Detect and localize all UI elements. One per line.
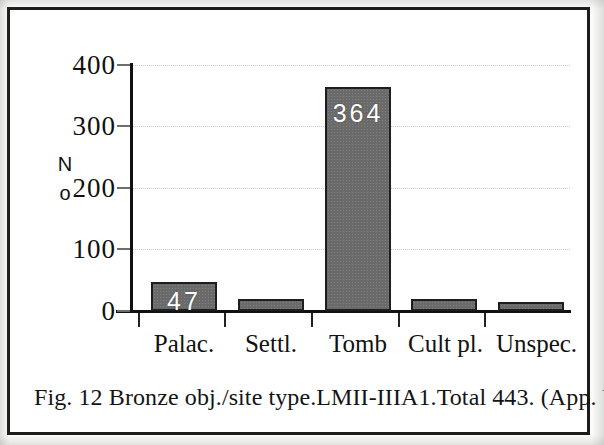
- y-axis-title-char-1: N: [52, 150, 78, 179]
- y-tick-label-0: 0: [44, 298, 116, 325]
- y-tick-400: [117, 64, 130, 66]
- bar-unspec[interactable]: [498, 302, 564, 311]
- x-tick-3: [398, 313, 400, 327]
- y-tick-label-100: 100: [44, 236, 116, 263]
- bar-settl[interactable]: [238, 299, 304, 311]
- bar-chart: 400 300 200 100 0 N o 47 364 Palac. Sett…: [0, 0, 604, 445]
- x-axis-label-tomb: Tomb: [317, 330, 399, 358]
- x-tick-2: [311, 313, 313, 327]
- y-axis-line: [130, 63, 133, 313]
- bar-value-palac: 47: [153, 287, 215, 316]
- bar-palac[interactable]: 47: [151, 282, 217, 311]
- y-tick-200: [117, 187, 130, 189]
- x-axis-label-settl: Settl.: [230, 330, 312, 358]
- bar-tomb[interactable]: 364: [325, 87, 391, 311]
- x-axis-label-unspec: Unspec.: [489, 330, 584, 358]
- scanned-page: 400 300 200 100 0 N o 47 364 Palac. Sett…: [0, 0, 604, 445]
- gridline-400: [131, 65, 570, 67]
- bar-cult-pl[interactable]: [411, 299, 477, 311]
- y-tick-labels: 400 300 200 100 0: [42, 0, 116, 445]
- x-tick-4: [484, 313, 486, 327]
- y-tick-label-300: 300: [44, 113, 116, 140]
- y-tick-label-400: 400: [44, 52, 116, 79]
- figure-caption: Fig. 12 Bronze obj./site type.LMII-IIIA1…: [34, 384, 574, 411]
- y-axis-title-char-2: o: [52, 179, 78, 208]
- bar-value-tomb: 364: [327, 99, 389, 128]
- y-tick-300: [117, 125, 130, 127]
- y-tick-0: [117, 310, 130, 312]
- x-axis-label-palac: Palac.: [143, 330, 225, 358]
- x-tick-0: [138, 313, 140, 327]
- y-axis-title: N o: [52, 150, 78, 208]
- y-tick-100: [117, 248, 130, 250]
- x-tick-1: [224, 313, 226, 327]
- x-axis-label-cult-pl: Cult pl.: [398, 330, 493, 358]
